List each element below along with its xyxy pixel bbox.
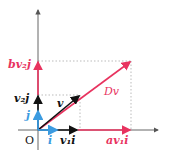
av1i-label: av₁i [106,135,129,146]
v1i-label: v₁i [60,135,75,146]
i-label: i [48,135,52,146]
j-label: j [26,110,30,121]
Dv-label: Dv [104,86,119,97]
origin-label: O [25,135,34,146]
bv2j-label: bv₂j [8,59,31,70]
v-label: v [57,98,63,109]
v2j-label: v₂j [14,93,29,104]
